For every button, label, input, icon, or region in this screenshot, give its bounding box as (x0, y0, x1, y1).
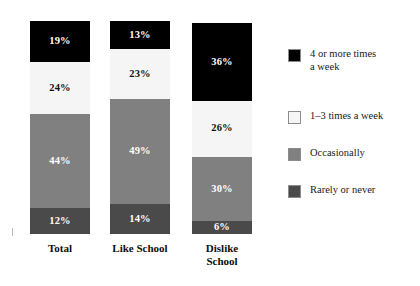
bar-segment: 14% (110, 204, 170, 234)
bar-segment: 13% (110, 21, 170, 49)
bar-group: 36%26%30%6% (192, 23, 252, 234)
bar-segment: 12% (30, 208, 90, 234)
bar-segment: 26% (192, 101, 252, 157)
category-axis-labels: TotalLike SchoolDislike School (0, 236, 268, 282)
bar-segment: 24% (30, 62, 90, 114)
segment-value-label: 23% (129, 69, 151, 80)
segment-value-label: 30% (211, 184, 233, 195)
segment-value-label: 14% (129, 214, 151, 225)
bar-segment: 23% (110, 49, 170, 98)
stacked-bar-chart: 19%24%44%12%13%23%49%14%36%26%30%6% Tota… (0, 0, 420, 286)
plot-area: 19%24%44%12%13%23%49%14%36%26%30%6% Tota… (0, 0, 268, 286)
bar-segment: 6% (192, 221, 252, 234)
bar-segment: 19% (30, 21, 90, 62)
segment-value-label: 26% (211, 123, 233, 134)
bar-segment: 49% (110, 99, 170, 204)
legend-item: Rarely or never (288, 184, 375, 198)
legend-label: Rarely or never (310, 184, 375, 197)
segment-value-label: 19% (49, 36, 71, 47)
segment-value-label: 49% (129, 146, 151, 157)
legend-item: Occasionally (288, 147, 365, 161)
legend-label: 4 or more times a week (310, 48, 376, 73)
chart-legend: 4 or more times a week1–3 times a weekOc… (288, 0, 420, 286)
legend-label: Occasionally (310, 147, 365, 160)
segment-value-label: 44% (49, 156, 71, 167)
segment-value-label: 24% (49, 83, 71, 94)
category-label: Like School (110, 242, 170, 255)
segment-value-label: 6% (214, 222, 230, 233)
category-label: Dislike School (192, 242, 252, 268)
segment-value-label: 13% (129, 30, 151, 41)
segment-value-label: 36% (211, 57, 233, 68)
segment-value-label: 12% (49, 216, 71, 227)
bar-group: 13%23%49%14% (110, 21, 170, 234)
category-label: Total (30, 242, 90, 255)
bar-series-container: 19%24%44%12%13%23%49%14%36%26%30%6% (0, 0, 268, 234)
legend-item: 4 or more times a week (288, 48, 376, 73)
legend-swatch-icon (288, 111, 301, 124)
bar-segment: 36% (192, 23, 252, 100)
legend-swatch-icon (288, 49, 301, 62)
bar-segment: 44% (30, 114, 90, 209)
legend-swatch-icon (288, 185, 301, 198)
bar-segment: 30% (192, 157, 252, 222)
legend-label: 1–3 times a week (310, 110, 383, 123)
legend-swatch-icon (288, 148, 301, 161)
bar-group: 19%24%44%12% (30, 21, 90, 234)
legend-item: 1–3 times a week (288, 110, 383, 124)
